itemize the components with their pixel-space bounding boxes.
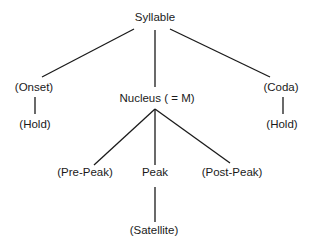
node-satellite: (Satellite) — [130, 225, 179, 237]
node-peak: Peak — [142, 167, 168, 179]
node-syllable: Syllable — [135, 12, 175, 24]
node-post-peak: (Post-Peak) — [202, 167, 263, 179]
edge-nucleus-pre-peak — [94, 109, 155, 165]
edge-syllable-coda — [170, 29, 270, 77]
node-coda-hold: (Hold) — [266, 119, 297, 131]
syllable-tree-diagram: Syllable (Onset) (Hold) Nucleus ( = M) (… — [0, 0, 314, 252]
edge-syllable-onset — [42, 29, 134, 77]
node-onset: (Onset) — [15, 82, 53, 94]
node-nucleus: Nucleus ( = M) — [119, 93, 194, 105]
node-pre-peak: (Pre-Peak) — [57, 167, 113, 179]
edge-nucleus-post-peak — [155, 109, 230, 163]
node-coda: (Coda) — [263, 82, 298, 94]
node-onset-hold: (Hold) — [19, 119, 50, 131]
